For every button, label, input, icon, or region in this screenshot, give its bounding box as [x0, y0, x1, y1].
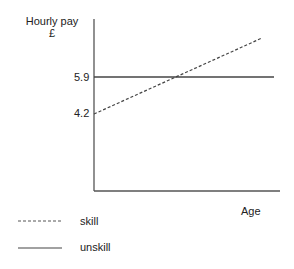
legend-skill-label: skill — [80, 215, 98, 227]
tick-label-5-9: 5.9 — [74, 71, 89, 83]
y-axis-unit: £ — [22, 27, 82, 39]
y-axis-label: Hourly pay £ — [22, 15, 82, 39]
chart-canvas — [0, 0, 294, 269]
skill-line — [94, 38, 262, 114]
y-axis-title: Hourly pay — [22, 15, 82, 27]
legend-unskill-label: unskill — [80, 241, 111, 253]
x-axis-label: Age — [241, 205, 261, 217]
tick-label-4-2: 4.2 — [74, 107, 89, 119]
